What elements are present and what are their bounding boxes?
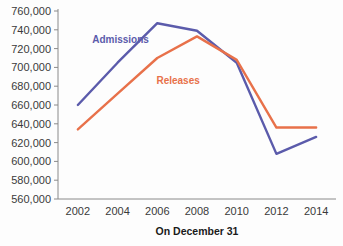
y-tick-label: 600,000 xyxy=(11,155,51,167)
x-tick-label: 2004 xyxy=(105,205,129,217)
y-tick-label: 760,000 xyxy=(11,5,51,17)
chart-canvas: 560,000580,000600,000620,000640,000660,0… xyxy=(0,0,343,246)
y-tick-label: 680,000 xyxy=(11,80,51,92)
series-label-admissions: Admissions xyxy=(92,34,149,45)
series-label-group: AdmissionsReleases xyxy=(92,34,200,86)
x-tick-label: 2012 xyxy=(264,205,288,217)
x-tick-label: 2010 xyxy=(224,205,248,217)
y-axis: 560,000580,000600,000620,000640,000660,0… xyxy=(11,5,58,205)
line-chart-container: 560,000580,000600,000620,000640,000660,0… xyxy=(0,0,343,246)
x-axis-title: On December 31 xyxy=(156,225,239,237)
x-tick-label: 2014 xyxy=(304,205,328,217)
y-tick-label: 580,000 xyxy=(11,174,51,186)
series-label-releases: Releases xyxy=(156,75,200,86)
y-tick-label: 620,000 xyxy=(11,137,51,149)
y-tick-label: 660,000 xyxy=(11,99,51,111)
x-axis: 2002200420062008201020122014 xyxy=(58,199,336,217)
y-tick-label: 560,000 xyxy=(11,193,51,205)
x-tick-label: 2006 xyxy=(145,205,169,217)
x-tick-label: 2002 xyxy=(66,205,90,217)
y-tick-label: 700,000 xyxy=(11,61,51,73)
y-tick-label: 640,000 xyxy=(11,118,51,130)
y-tick-label: 720,000 xyxy=(11,43,51,55)
y-tick-label: 740,000 xyxy=(11,24,51,36)
x-tick-label: 2008 xyxy=(185,205,209,217)
